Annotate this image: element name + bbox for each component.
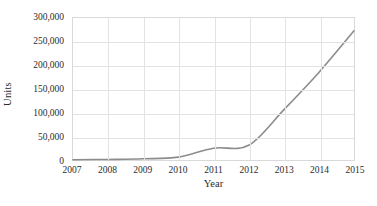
- y-axis-tick-label: 250,000: [33, 36, 64, 46]
- gridline-horizontal: [73, 66, 354, 67]
- gridline-vertical: [285, 18, 286, 160]
- y-axis-tick-label: 200,000: [33, 60, 64, 70]
- y-axis-tick-label: 100,000: [33, 108, 64, 118]
- y-axis-tick-label: 300,000: [33, 12, 64, 22]
- x-axis-title: Year: [72, 178, 355, 189]
- x-axis-tick-label: 2014: [310, 164, 329, 176]
- gridline-vertical: [215, 18, 216, 160]
- gridline-vertical: [144, 18, 145, 160]
- x-axis-tick-label: 2011: [204, 164, 223, 176]
- x-axis-tick-label: 2013: [275, 164, 294, 176]
- x-axis-tick-label: 2007: [63, 164, 82, 176]
- y-axis-tick-labels: 050,000100,000150,000200,000250,000300,0…: [0, 0, 69, 206]
- x-axis-tick-label: 2012: [239, 164, 258, 176]
- x-axis-tick-label: 2010: [169, 164, 188, 176]
- gridline-horizontal: [73, 90, 354, 91]
- x-axis-tick-label: 2008: [98, 164, 117, 176]
- gridline-horizontal: [73, 138, 354, 139]
- gridline-horizontal: [73, 114, 354, 115]
- gridline-vertical: [321, 18, 322, 160]
- gridline-vertical: [250, 18, 251, 160]
- gridline-vertical: [108, 18, 109, 160]
- y-axis-tick-label: 50,000: [38, 132, 64, 142]
- gridline-horizontal: [73, 42, 354, 43]
- x-axis-tick-labels: 200720082009201020112012201320142015: [72, 164, 355, 178]
- x-axis-tick-label: 2009: [133, 164, 152, 176]
- plot-area: [72, 17, 355, 161]
- line-chart: Units 050,000100,000150,000200,000250,00…: [0, 0, 377, 206]
- gridline-vertical: [179, 18, 180, 160]
- x-axis-tick-label: 2015: [346, 164, 365, 176]
- y-axis-tick-label: 150,000: [33, 84, 64, 94]
